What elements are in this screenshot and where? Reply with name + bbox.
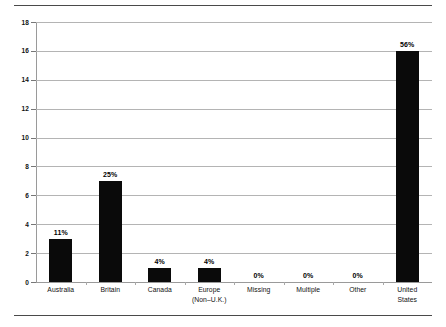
- bar-value-label: 25%: [90, 171, 130, 179]
- bar: [396, 51, 419, 282]
- y-tick-mark-0: [31, 282, 36, 283]
- y-tick-mark-10: [31, 138, 36, 139]
- plot-area: 11%25%4%4%0%0%0%56%: [36, 22, 432, 282]
- bar-value-label: 0%: [239, 272, 279, 280]
- x-tick-mark: [135, 282, 136, 285]
- gridline-10: [36, 138, 432, 139]
- category-label: Canada: [135, 285, 185, 295]
- y-tick-label-14: 14: [7, 76, 29, 83]
- y-tick-mark-18: [31, 22, 36, 23]
- y-tick-label-10: 10: [7, 134, 29, 141]
- bar-value-label: 4%: [140, 258, 180, 266]
- bar-value-label: 4%: [189, 258, 229, 266]
- bar-value-label: 56%: [387, 41, 427, 49]
- bar: [198, 268, 221, 282]
- x-tick-mark: [284, 282, 285, 285]
- bar: [99, 181, 122, 282]
- y-tick-label-16: 16: [7, 47, 29, 54]
- y-axis-tick-labels: 024681012141618: [0, 0, 29, 327]
- gridline-2: [36, 253, 432, 254]
- category-label: Other: [333, 285, 383, 295]
- x-tick-mark: [234, 282, 235, 285]
- y-tick-mark-8: [31, 166, 36, 167]
- category-label: Britain: [86, 285, 136, 295]
- gridline-6: [36, 195, 432, 196]
- bar: [49, 239, 72, 282]
- x-tick-mark: [86, 282, 87, 285]
- bar-value-label: 0%: [288, 272, 328, 280]
- category-label: Australia: [36, 285, 86, 295]
- bar: [148, 268, 171, 282]
- x-axis-category-labels: AustraliaBritainCanadaEurope(Non–U.K.)Mi…: [36, 285, 432, 319]
- category-label: Multiple: [284, 285, 334, 295]
- bar-value-label: 11%: [41, 229, 81, 237]
- bar-value-label: 0%: [338, 272, 378, 280]
- category-label-line2: States: [383, 295, 433, 305]
- y-tick-mark-12: [31, 109, 36, 110]
- gridline-18: [36, 22, 432, 23]
- x-tick-mark: [333, 282, 334, 285]
- category-label: UnitedStates: [383, 285, 433, 304]
- x-tick-mark: [185, 282, 186, 285]
- y-tick-label-2: 2: [7, 250, 29, 257]
- gridline-12: [36, 109, 432, 110]
- y-tick-label-18: 18: [7, 19, 29, 26]
- bar-chart-figure: 024681012141618 11%25%4%4%0%0%0%56% Aust…: [0, 0, 446, 327]
- y-tick-label-12: 12: [7, 105, 29, 112]
- gridline-14: [36, 80, 432, 81]
- y-tick-mark-16: [31, 51, 36, 52]
- x-tick-mark: [383, 282, 384, 285]
- gridline-4: [36, 224, 432, 225]
- top-horizontal-rule: [14, 5, 432, 6]
- y-tick-label-0: 0: [7, 279, 29, 286]
- y-tick-mark-6: [31, 195, 36, 196]
- gridline-8: [36, 166, 432, 167]
- y-tick-mark-2: [31, 253, 36, 254]
- y-tick-mark-4: [31, 224, 36, 225]
- y-tick-label-4: 4: [7, 221, 29, 228]
- gridline-16: [36, 51, 432, 52]
- y-tick-mark-14: [31, 80, 36, 81]
- category-label-line2: (Non–U.K.): [185, 295, 235, 305]
- y-tick-label-6: 6: [7, 192, 29, 199]
- y-tick-label-8: 8: [7, 163, 29, 170]
- category-label: Europe(Non–U.K.): [185, 285, 235, 304]
- category-label: Missing: [234, 285, 284, 295]
